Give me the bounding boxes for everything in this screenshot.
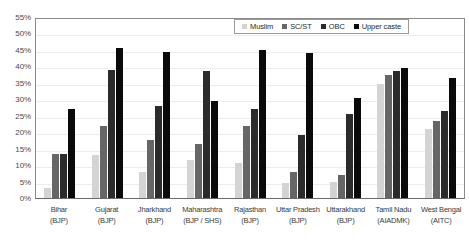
legend-item: OBC (321, 23, 345, 31)
x-axis-state-name: Rajasthan (234, 205, 266, 214)
bar-group (417, 19, 465, 198)
x-axis-group-label: Tamil Nadu(AIADMK) (369, 201, 417, 243)
bar-obc (203, 71, 210, 198)
legend-label: OBC (329, 23, 345, 31)
bar-sc-st (338, 175, 345, 198)
x-axis-party-name: (BJP) (131, 215, 179, 226)
bar-muslim (282, 183, 289, 198)
y-axis-tick-label: 5% (20, 179, 31, 187)
bar-obc (60, 154, 67, 198)
legend-label: SC/ST (290, 23, 312, 31)
x-axis-party-name: (BJP / SHS) (178, 215, 226, 226)
x-axis-party-name: (AIADMK) (369, 215, 417, 226)
bar-obc (298, 135, 305, 198)
bar-sc-st (290, 172, 297, 198)
y-axis-tick-label: 0% (20, 195, 31, 203)
x-axis-state-name: Bihar (51, 205, 68, 214)
x-axis-group-label: Bihar(BJP) (35, 201, 83, 243)
y-axis-tick-label: 30% (15, 96, 31, 104)
y-axis-tick-label: 10% (15, 162, 31, 170)
legend-label: Upper caste (362, 23, 401, 31)
bar-group (274, 19, 322, 198)
bar-chart: 0%5%10%15%20%25%30%35%40%45%50%55% Bihar… (0, 0, 469, 243)
x-axis-group-label: Uttar Pradesh(BJP) (274, 201, 322, 243)
x-axis-state-name: West Bengal (421, 205, 461, 214)
legend-item: SC/ST (282, 23, 312, 31)
bar-sc-st (433, 121, 440, 198)
bar-muslim (330, 182, 337, 198)
legend-swatch-icon (242, 24, 247, 29)
y-axis-tick-label: 35% (15, 80, 31, 88)
legend-label: Muslim (250, 23, 273, 31)
bar-upper-caste (68, 109, 75, 198)
bar-obc (346, 114, 353, 198)
y-axis-tick-label: 20% (15, 129, 31, 137)
x-axis-party-name: (BJP) (322, 215, 370, 226)
bar-muslim (92, 155, 99, 198)
bar-group (369, 19, 417, 198)
bar-muslim (235, 163, 242, 198)
y-axis-tick-label: 50% (15, 30, 31, 38)
legend-item: Muslim (242, 23, 273, 31)
bar-group (36, 19, 84, 198)
plot-area (35, 18, 465, 199)
bar-sc-st (147, 140, 154, 198)
bar-muslim (377, 84, 384, 198)
bar-muslim (187, 160, 194, 198)
x-axis: Bihar(BJP)Gujarat(BJP)Jharkhand(BJP)Maha… (35, 201, 465, 243)
bar-sc-st (52, 154, 59, 198)
bar-group (131, 19, 179, 198)
y-axis-tick-label: 15% (15, 146, 31, 154)
bar-obc (251, 109, 258, 198)
x-axis-state-name: Jharkhand (138, 205, 171, 214)
bar-upper-caste (259, 50, 266, 198)
y-axis: 0%5%10%15%20%25%30%35%40%45%50%55% (0, 0, 33, 243)
bar-sc-st (100, 126, 107, 198)
bar-muslim (44, 188, 51, 198)
bar-upper-caste (306, 53, 313, 198)
x-axis-party-name: (BJP) (274, 215, 322, 226)
x-axis-group-label: West Bengal(AITC) (417, 201, 465, 243)
legend-item: Upper caste (354, 23, 401, 31)
bar-group (84, 19, 132, 198)
chart-legend: MuslimSC/STOBCUpper caste (234, 19, 409, 34)
bar-group (321, 19, 369, 198)
bar-upper-caste (401, 68, 408, 198)
y-axis-tick-label: 40% (15, 63, 31, 71)
bar-upper-caste (449, 78, 456, 198)
x-axis-state-name: Uttarakhand (326, 205, 365, 214)
legend-swatch-icon (354, 24, 359, 29)
x-axis-state-name: Gujarat (95, 205, 118, 214)
x-axis-state-name: Uttar Pradesh (276, 205, 320, 214)
bar-obc (155, 106, 162, 198)
bar-group (179, 19, 227, 198)
bar-upper-caste (211, 101, 218, 198)
x-axis-group-label: Uttarakhand(BJP) (322, 201, 370, 243)
legend-swatch-icon (282, 24, 287, 29)
bars-layer (36, 19, 464, 198)
x-axis-party-name: (BJP) (83, 215, 131, 226)
x-axis-state-name: Tamil Nadu (376, 205, 412, 214)
bar-obc (441, 111, 448, 198)
bar-obc (108, 70, 115, 198)
x-axis-party-name: (BJP) (35, 215, 83, 226)
bar-obc (393, 71, 400, 198)
x-axis-group-label: Gujarat(BJP) (83, 201, 131, 243)
x-axis-group-label: Rajasthan(BJP) (226, 201, 274, 243)
bar-upper-caste (163, 52, 170, 198)
bar-upper-caste (354, 98, 361, 198)
x-axis-state-name: Maharashtra (182, 205, 222, 214)
bar-sc-st (195, 144, 202, 198)
bar-muslim (425, 129, 432, 198)
y-axis-tick-label: 45% (15, 47, 31, 55)
x-axis-party-name: (BJP) (226, 215, 274, 226)
bar-upper-caste (116, 48, 123, 198)
x-axis-party-name: (AITC) (417, 215, 465, 226)
y-axis-tick-label: 25% (15, 113, 31, 121)
legend-swatch-icon (321, 24, 326, 29)
bar-group (226, 19, 274, 198)
x-axis-group-label: Jharkhand(BJP) (131, 201, 179, 243)
y-axis-tick-label: 55% (15, 14, 31, 22)
bar-sc-st (385, 75, 392, 198)
bar-muslim (139, 172, 146, 198)
